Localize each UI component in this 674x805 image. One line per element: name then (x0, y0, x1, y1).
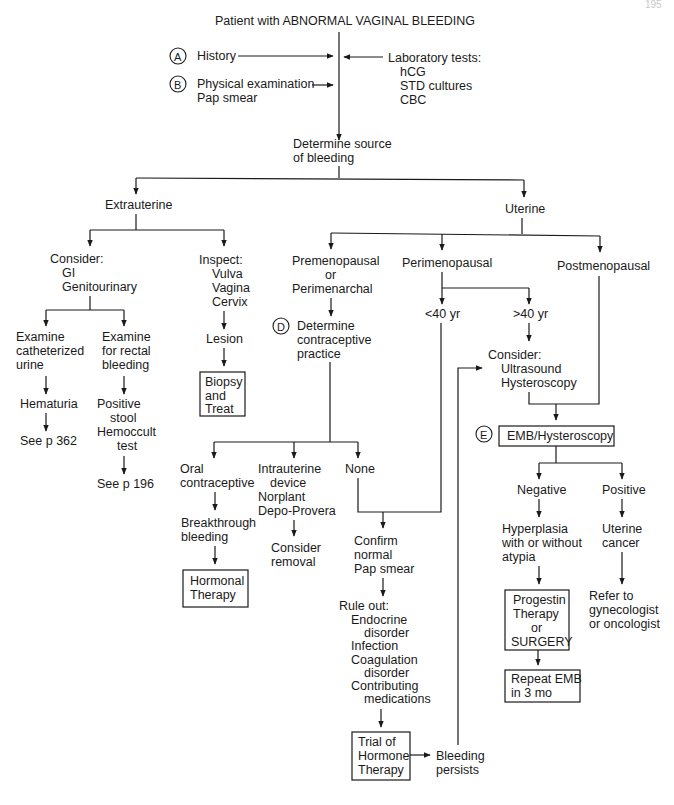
refer-line2: gynecologist (589, 603, 659, 617)
premenopausal-line1: Premenopausal (292, 254, 380, 268)
biopsy-line1: Biopsy (205, 375, 243, 389)
hyperplasia-line2: with or without (501, 536, 582, 550)
iud-line4: Depo-Provera (258, 504, 336, 518)
lesion-label: Lesion (206, 332, 243, 346)
step-e-letter: E (480, 429, 487, 441)
inspect-node: Inspect: Vulva Vagina Cervix (199, 253, 250, 309)
persists-feedback-line (458, 368, 482, 745)
determine-source-line2: of bleeding (293, 151, 354, 165)
trial-line1: Trial of (358, 735, 396, 749)
uterine-split-bar (331, 233, 600, 236)
refer-line1: Refer to (589, 589, 634, 603)
repeat-emb-line2: in 3 mo (511, 686, 552, 700)
iud-line2: device (270, 476, 306, 490)
iud-node: Intrauterine device Norplant Depo-Prover… (258, 462, 336, 518)
determine-source-line1: Determine source (293, 137, 392, 151)
breakthrough-line1: Breakthrough (181, 516, 256, 530)
emb-hysteroscopy-label: EMB/Hysteroscopy (507, 429, 614, 443)
step-d-line1: Determine (297, 319, 355, 333)
confirm-line1: Confirm (354, 534, 398, 548)
bleeding-persists-node: Bleeding persists (436, 749, 485, 777)
page-number: 195 (645, 0, 662, 10)
progestin-line2: Therapy (513, 607, 560, 621)
inspect-vulva: Vulva (212, 267, 243, 281)
extrauterine-label: Extrauterine (105, 198, 172, 212)
hemoccult-line4: test (117, 439, 138, 453)
step-d-letter: D (277, 321, 285, 333)
consider-ultrasound: Ultrasound (501, 362, 561, 376)
consider-gi: GI (62, 266, 75, 280)
consider-ultrasound-node: Consider: Ultrasound Hysteroscopy (488, 348, 577, 390)
see-p-196-link[interactable]: See p 196 (97, 477, 154, 491)
perimenopausal-label: Perimenopausal (402, 256, 492, 270)
oral-line1: Oral (180, 462, 204, 476)
rule-out-line5: disorder (364, 666, 409, 680)
hyperplasia-line1: Hyperplasia (502, 522, 568, 536)
rectal-line3: bleeding (102, 358, 149, 372)
history-label: History (197, 49, 237, 63)
step-a-letter: A (174, 51, 182, 63)
see-p-362-link[interactable]: See p 362 (20, 434, 77, 448)
step-d-line2: contraceptive (297, 333, 371, 347)
hemoccult-node: Positive stool Hemoccult test (97, 397, 157, 453)
step-b-letter: B (174, 79, 181, 91)
postmenopausal-label: Postmenopausal (557, 259, 650, 273)
hematuria-label: Hematuria (20, 397, 78, 411)
trial-line3: Therapy (358, 763, 405, 777)
progestin-line4: SURGERY (511, 635, 573, 649)
hormonal-line1: Hormonal (190, 574, 244, 588)
removal-line2: removal (271, 555, 315, 569)
breakthrough-node: Breakthrough bleeding (181, 516, 256, 544)
catheterized-line1: Examine (16, 330, 65, 344)
rule-out-line4: Coagulation (351, 653, 418, 667)
premenopausal-line3: Perimenarchal (292, 282, 373, 296)
premenopausal-line2: or (325, 268, 336, 282)
hemoccult-line3: Hemoccult (97, 425, 157, 439)
rule-out-line7: medications (364, 692, 431, 706)
lab-tests: Laboratory tests: hCG STD cultures CBC (388, 51, 481, 107)
consider-heading: Consider: (50, 252, 104, 266)
consider-removal-node: Consider removal (271, 541, 321, 569)
none-label: None (345, 462, 375, 476)
catheterized-line3: urine (16, 358, 44, 372)
oral-contraceptive-node: Oral contraceptive (180, 462, 254, 490)
uterine-cancer-node: Uterine cancer (602, 522, 642, 550)
persists-line1: Bleeding (436, 749, 485, 763)
persists-line2: persists (436, 763, 479, 777)
none-under40-merge-line (358, 323, 441, 512)
iud-line1: Intrauterine (258, 462, 321, 476)
biopsy-line3: Treat (205, 402, 234, 416)
hormonal-line2: Therapy (190, 588, 237, 602)
rectal-bleeding-node: Examine for rectal bleeding (102, 330, 151, 372)
source-split-bar (136, 178, 524, 180)
flowchart-title: Patient with ABNORMAL VAGINAL BLEEDING (215, 14, 475, 28)
lab-test-std: STD cultures (400, 79, 472, 93)
progestin-line1: Progestin (513, 593, 566, 607)
lab-test-hcg: hCG (400, 65, 426, 79)
trial-line2: Hormone (358, 749, 409, 763)
iud-line3: Norplant (258, 490, 306, 504)
step-d-line3: practice (297, 347, 341, 361)
consider-hysteroscopy: Hysteroscopy (501, 376, 577, 390)
lab-tests-heading: Laboratory tests: (388, 51, 481, 65)
rule-out-node: Rule out: Endocrine disorder Infection C… (339, 599, 431, 706)
step-b: B Physical examination Pap smear (170, 76, 314, 105)
premenopausal-node: Premenopausal or Perimenarchal (292, 254, 380, 296)
step-d: D Determine contraceptive practice (273, 318, 371, 361)
pap-smear-label: Pap smear (197, 91, 257, 105)
confirm-line2: normal (354, 548, 392, 562)
rule-out-line2: disorder (364, 626, 409, 640)
rule-out-line3: Infection (351, 639, 398, 653)
uterine-cancer-line1: Uterine (602, 522, 642, 536)
catheterized-urine-node: Examine catheterized urine (16, 330, 84, 372)
consider-us-heading: Consider: (488, 348, 542, 362)
hyperplasia-node: Hyperplasia with or without atypia (501, 522, 582, 564)
rule-out-line6: Contributing (351, 679, 418, 693)
physical-exam-label: Physical examination (197, 77, 314, 91)
step-e: E (476, 426, 492, 442)
over-40-label: >40 yr (513, 307, 548, 321)
biopsy-line2: and (205, 389, 226, 403)
removal-line1: Consider (271, 541, 321, 555)
progestin-line3: or (531, 621, 542, 635)
repeat-emb-line1: Repeat EMB (511, 672, 582, 686)
